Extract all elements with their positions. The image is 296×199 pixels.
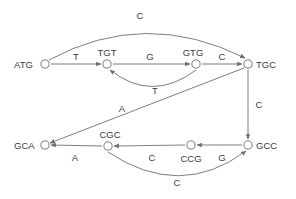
edge-label-atg-tgc: C: [137, 10, 144, 21]
node-label-cgc: CGC: [99, 129, 120, 140]
node-label-gca: GCA: [14, 140, 35, 151]
node-circle-tgt[interactable]: [103, 60, 111, 68]
graph-canvas: ATGTGTGTGTGCGCCCCGCGCGCA TGCCTCGCAAC: [0, 0, 296, 199]
node-tgc[interactable]: TGC: [244, 59, 276, 70]
node-label-atg: ATG: [14, 59, 33, 70]
node-circle-gcc[interactable]: [244, 141, 252, 149]
node-label-gtg: GTG: [183, 47, 204, 58]
node-circle-ccg[interactable]: [187, 141, 195, 149]
node-ccg[interactable]: CCG: [180, 141, 201, 164]
edge-label-gcc-ccg: G: [218, 152, 225, 163]
node-cgc[interactable]: CGC: [99, 129, 120, 150]
edge-ccg-to-cgc: [114, 145, 185, 146]
node-circle-tgc[interactable]: [244, 60, 252, 68]
node-circle-atg[interactable]: [41, 60, 49, 68]
node-label-gcc: GCC: [256, 140, 277, 151]
edge-label-gtg-tgt: T: [152, 85, 158, 96]
node-tgt[interactable]: TGT: [98, 47, 117, 68]
node-circle-cgc[interactable]: [104, 142, 112, 150]
edge-tgc-to-gca: [50, 68, 244, 143]
node-circle-gca[interactable]: [41, 141, 49, 149]
node-gca[interactable]: GCA: [14, 140, 49, 151]
nodes-layer: ATGTGTGTGTGCGCCCCGCGCGCA: [14, 47, 277, 164]
edge-label-gtg-tgc: C: [219, 51, 226, 62]
node-gcc[interactable]: GCC: [244, 140, 277, 151]
edge-cgc-to-gca: [51, 145, 102, 146]
node-circle-gtg[interactable]: [192, 60, 200, 68]
edge-label-cgc-gcc: C: [174, 177, 181, 188]
node-label-tgc: TGC: [256, 59, 276, 70]
node-gtg[interactable]: GTG: [183, 47, 204, 68]
diagram-root: ATGTGTGTGTGCGCCCCGCGCGCA TGCCTCGCAAC: [0, 0, 296, 199]
node-label-ccg: CCG: [180, 153, 201, 164]
edge-label-tgc-gcc: C: [256, 99, 263, 110]
edge-label-tgt-gtg: G: [146, 51, 153, 62]
edge-label-ccg-cgc: C: [149, 152, 156, 163]
node-label-tgt: TGT: [98, 47, 117, 58]
node-atg[interactable]: ATG: [14, 59, 49, 70]
edge-label-tgc-gca: A: [119, 103, 126, 114]
edge-labels-layer: TGCCTCGCAAC: [72, 10, 263, 188]
edge-label-cgc-gca: A: [72, 152, 79, 163]
edge-label-atg-tgt: T: [73, 51, 79, 62]
